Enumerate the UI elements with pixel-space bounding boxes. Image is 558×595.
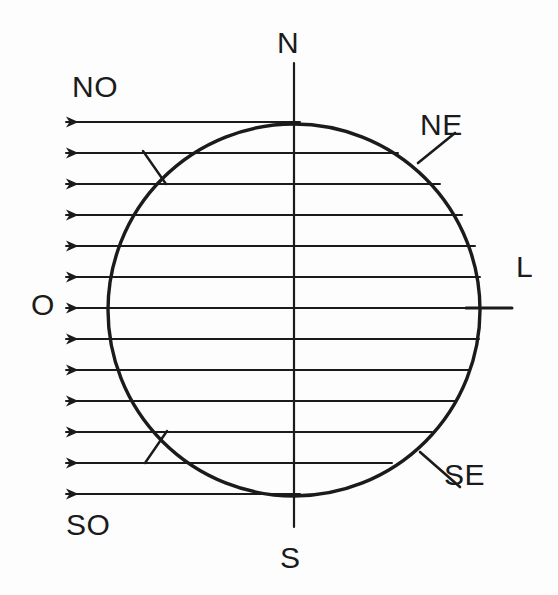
label-northeast: NE [420,110,463,140]
figure-root: N S O L NO NE SE SO [0,0,558,595]
label-north: N [277,28,299,58]
label-west: O [31,290,55,320]
label-east: L [516,252,533,282]
leader-lines [143,133,460,487]
label-northwest: NO [72,72,118,102]
no-tick [143,151,166,184]
label-southeast: SE [444,460,485,490]
label-southwest: SO [66,510,110,540]
zonal-flow-arrows [66,122,481,494]
label-south: S [280,543,301,573]
